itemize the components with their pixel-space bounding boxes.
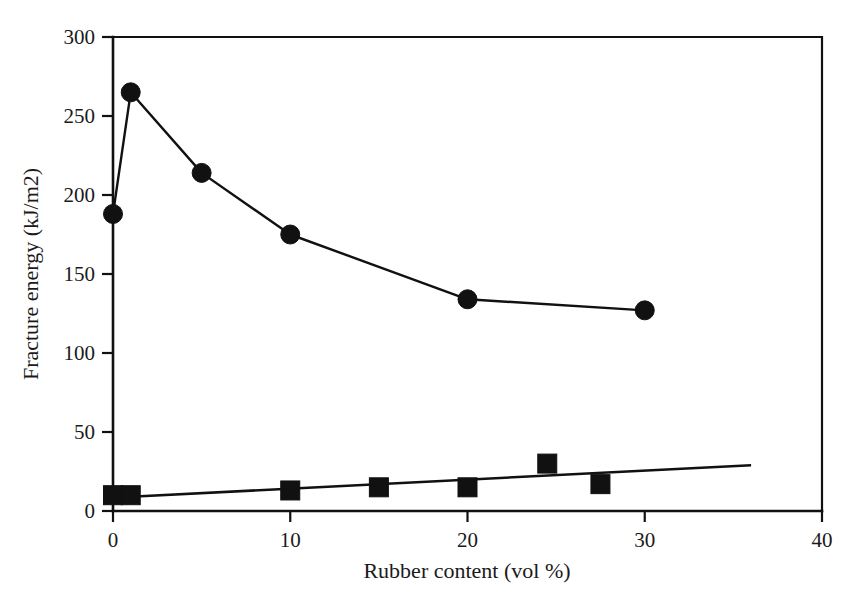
y-axis-title: Fracture energy (kJ/m2) bbox=[18, 168, 43, 380]
data-point-circle[interactable] bbox=[635, 301, 654, 320]
data-point-circle[interactable] bbox=[121, 83, 140, 102]
trendline-fracture-energy-squares bbox=[131, 465, 751, 497]
y-tick-label: 300 bbox=[64, 25, 96, 49]
fracture-energy-scatter-chart: 050100150200250300 010203040 Rubber cont… bbox=[0, 0, 856, 610]
data-point-square[interactable] bbox=[369, 478, 388, 497]
x-tick-label: 30 bbox=[634, 528, 655, 552]
x-axis-title: Rubber content (vol %) bbox=[363, 558, 570, 583]
series-polyline-fracture-energy-circles bbox=[113, 92, 645, 310]
x-axis-ticks bbox=[113, 511, 822, 522]
data-point-square[interactable] bbox=[104, 486, 123, 505]
y-tick-label: 200 bbox=[64, 183, 96, 207]
data-point-square[interactable] bbox=[121, 486, 140, 505]
x-axis-tick-labels: 010203040 bbox=[108, 528, 833, 552]
data-point-square[interactable] bbox=[591, 475, 610, 494]
y-tick-label: 0 bbox=[85, 499, 96, 523]
y-axis-ticks bbox=[102, 37, 113, 511]
series-markers-group bbox=[104, 83, 655, 505]
y-tick-label: 150 bbox=[64, 262, 96, 286]
series-lines-group bbox=[113, 92, 751, 496]
x-tick-label: 40 bbox=[812, 528, 833, 552]
y-tick-label: 100 bbox=[64, 341, 96, 365]
data-point-square[interactable] bbox=[281, 481, 300, 500]
y-tick-label: 50 bbox=[74, 420, 95, 444]
x-tick-label: 10 bbox=[280, 528, 301, 552]
y-axis-tick-labels: 050100150200250300 bbox=[64, 25, 96, 523]
x-tick-label: 20 bbox=[457, 528, 478, 552]
data-point-circle[interactable] bbox=[192, 163, 211, 182]
x-tick-label: 0 bbox=[108, 528, 119, 552]
chart-figure: 050100150200250300 010203040 Rubber cont… bbox=[0, 0, 856, 610]
plot-frame-top-right-border bbox=[113, 37, 822, 511]
data-point-circle[interactable] bbox=[458, 290, 477, 309]
plot-frame bbox=[113, 37, 822, 511]
data-point-circle[interactable] bbox=[104, 204, 123, 223]
y-tick-label: 250 bbox=[64, 104, 96, 128]
data-point-square[interactable] bbox=[538, 454, 557, 473]
data-point-square[interactable] bbox=[458, 478, 477, 497]
data-point-circle[interactable] bbox=[281, 225, 300, 244]
